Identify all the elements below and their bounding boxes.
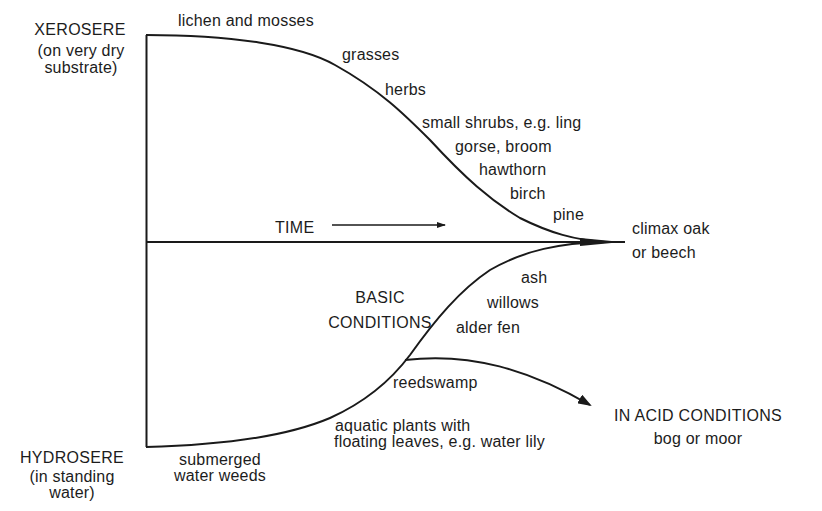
stage-birch: birch: [510, 184, 546, 203]
stage-herbs: herbs: [385, 80, 426, 99]
stage-small-shrubs: small shrubs, e.g. ling: [422, 113, 581, 132]
stage-alder-fen: alder fen: [456, 318, 520, 337]
basic-conditions-line2: CONDITIONS: [312, 313, 448, 332]
stage-submerged-line2: water weeds: [165, 466, 275, 485]
stage-aquatic-plants-line2: floating leaves, e.g. water lily: [334, 432, 545, 451]
climax-line1: climax oak: [632, 219, 710, 238]
xerosere-subtitle-line2: substrate): [22, 58, 140, 77]
acid-conditions-label: IN ACID CONDITIONS: [598, 406, 798, 425]
stage-hawthorn: hawthorn: [479, 160, 546, 179]
stage-grasses: grasses: [342, 45, 399, 64]
succession-diagram: XEROSERE (on very dry substrate) lichen …: [0, 0, 822, 511]
stage-gorse-broom: gorse, broom: [455, 137, 552, 156]
time-axis-label: TIME: [275, 218, 314, 237]
stage-lichen-mosses: lichen and mosses: [178, 11, 314, 30]
climax-line2: or beech: [632, 243, 696, 262]
basic-conditions-line1: BASIC: [320, 288, 440, 307]
xerosere-title: XEROSERE: [30, 20, 130, 39]
stage-ash: ash: [521, 268, 547, 287]
climax-convergence-point: [580, 238, 622, 246]
hydrosere-title: HYDROSERE: [12, 448, 132, 467]
stage-willows: willows: [487, 293, 539, 312]
bog-or-moor-label: bog or moor: [598, 429, 798, 448]
stage-pine: pine: [553, 205, 584, 224]
stage-reedswamp: reedswamp: [393, 373, 478, 392]
hydrosere-subtitle-line2: water): [12, 483, 132, 502]
